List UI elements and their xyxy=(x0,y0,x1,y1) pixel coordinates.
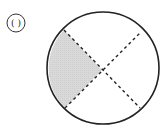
geometry-figure: ( ) xyxy=(0,0,161,125)
shaded-sector xyxy=(49,30,102,108)
figure-label-marker: ( ) xyxy=(7,14,25,32)
figure-label: ( ) xyxy=(11,18,21,28)
